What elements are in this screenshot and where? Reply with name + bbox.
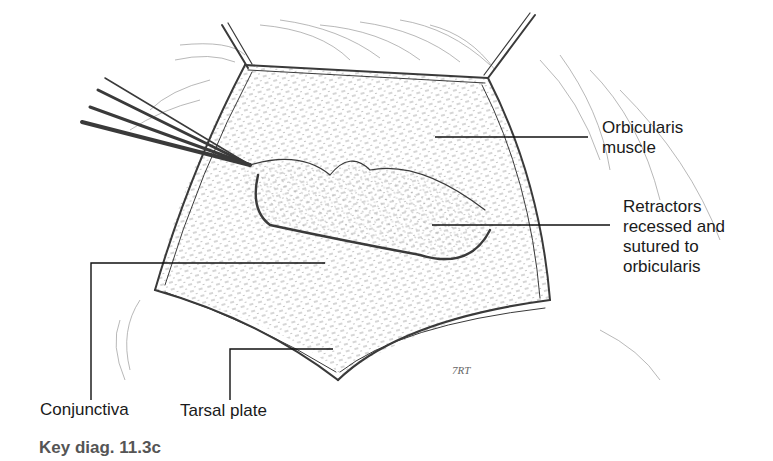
label-retractors: Retractors recessed and sutured to orbic…	[623, 197, 725, 277]
label-orbicularis-muscle: Orbicularis muscle	[602, 118, 683, 158]
label-conjunctiva: Conjunctiva	[40, 400, 129, 420]
figure-caption: Key diag. 11.3c	[39, 438, 161, 458]
label-tarsal-plate: Tarsal plate	[180, 401, 267, 421]
artist-signature: 7RT	[452, 364, 471, 376]
